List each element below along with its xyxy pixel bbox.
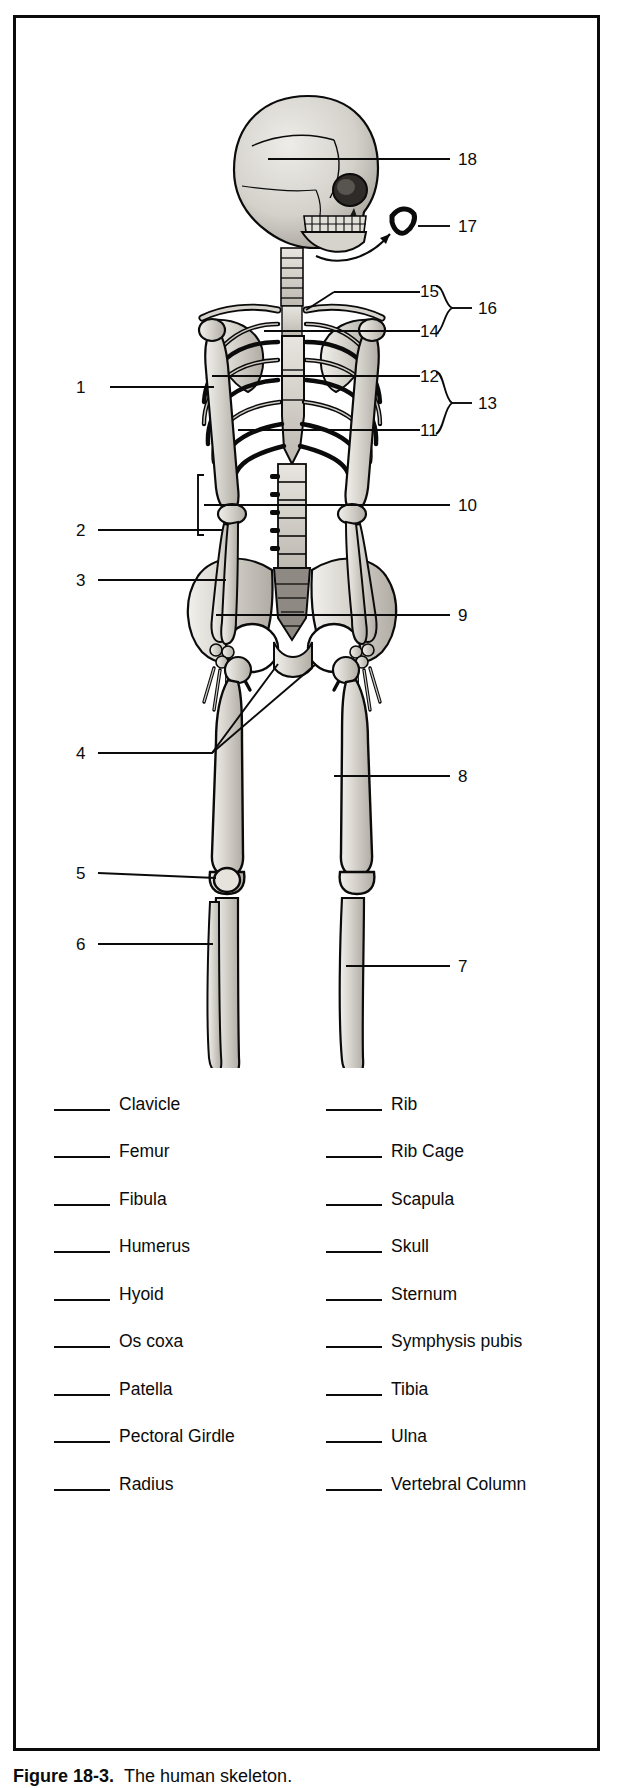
word-list-item[interactable]: Femur (54, 1128, 324, 1176)
label-9: 9 (458, 607, 467, 624)
brace-16 (436, 286, 472, 334)
figure-frame: 1 2 3 4 5 6 7 8 9 10 11 12 13 14 15 16 1… (13, 15, 600, 1751)
word-list-term: Rib Cage (391, 1141, 464, 1161)
label-6: 6 (76, 936, 85, 953)
label-3: 3 (76, 572, 85, 589)
label-13: 13 (478, 395, 497, 412)
cervical-spine (281, 248, 303, 306)
word-list-item[interactable]: Vertebral Column (326, 1460, 596, 1508)
word-list-term: Clavicle (119, 1094, 180, 1114)
label-14: 14 (420, 323, 439, 340)
label-4: 4 (76, 745, 85, 762)
answer-blank[interactable] (326, 1394, 382, 1396)
word-list-term: Femur (119, 1141, 170, 1161)
word-list-item[interactable]: Skull (326, 1223, 596, 1271)
lumbar-spine (270, 464, 306, 568)
word-list-item[interactable]: Symphysis pubis (326, 1318, 596, 1366)
word-list-column-right: Rib Rib Cage Scapula Skull Sternum Symph… (326, 1080, 596, 1508)
word-list-item[interactable]: Radius (54, 1460, 324, 1508)
label-11: 11 (420, 422, 438, 439)
word-list-column-left: Clavicle Femur Fibula Humerus Hyoid Os c… (54, 1080, 324, 1508)
leader-lines (98, 159, 450, 966)
answer-blank[interactable] (326, 1489, 382, 1491)
answer-blank[interactable] (326, 1156, 382, 1158)
word-list-item[interactable]: Clavicle (54, 1080, 324, 1128)
word-list-term: Vertebral Column (391, 1474, 526, 1494)
word-list-term: Tibia (391, 1379, 428, 1399)
word-list: Clavicle Femur Fibula Humerus Hyoid Os c… (16, 1080, 597, 1692)
word-list-term: Os coxa (119, 1331, 183, 1351)
word-list-item[interactable]: Ulna (326, 1413, 596, 1461)
sternum-and-thoracic-spine (282, 306, 304, 464)
figure-caption: Figure 18-3.The human skeleton. (13, 1766, 613, 1787)
word-list-term: Scapula (391, 1189, 454, 1209)
answer-blank[interactable] (54, 1299, 110, 1301)
answer-blank[interactable] (54, 1394, 110, 1396)
word-list-item[interactable]: Sternum (326, 1270, 596, 1318)
word-list-item[interactable]: Fibula (54, 1175, 324, 1223)
figure-caption-text: The human skeleton. (124, 1766, 292, 1786)
word-list-term: Skull (391, 1236, 429, 1256)
answer-blank[interactable] (54, 1441, 110, 1443)
word-list-term: Pectoral Girdle (119, 1426, 235, 1446)
word-list-term: Radius (119, 1474, 173, 1494)
label-8: 8 (458, 768, 467, 785)
answer-blank[interactable] (54, 1489, 110, 1491)
word-list-term: Symphysis pubis (391, 1331, 522, 1351)
word-list-item[interactable]: Rib (326, 1080, 596, 1128)
label-15: 15 (420, 283, 439, 300)
label-12: 12 (420, 368, 439, 385)
leader-4 (98, 664, 278, 753)
right-leg-group (333, 657, 374, 1068)
label-2: 2 (76, 522, 85, 539)
brace-13 (436, 372, 472, 434)
word-list-item[interactable]: Patella (54, 1365, 324, 1413)
label-17: 17 (458, 218, 477, 235)
answer-blank[interactable] (326, 1204, 382, 1206)
answer-blank[interactable] (326, 1299, 382, 1301)
figure-caption-label: Figure 18-3. (13, 1766, 114, 1786)
answer-blank[interactable] (326, 1346, 382, 1348)
word-list-term: Sternum (391, 1284, 457, 1304)
answer-blank[interactable] (326, 1109, 382, 1111)
word-list-item[interactable]: Hyoid (54, 1270, 324, 1318)
word-list-item[interactable]: Rib Cage (326, 1128, 596, 1176)
word-list-term: Patella (119, 1379, 173, 1399)
label-10: 10 (458, 497, 477, 514)
answer-blank[interactable] (54, 1156, 110, 1158)
word-list-item[interactable]: Tibia (326, 1365, 596, 1413)
answer-blank[interactable] (54, 1346, 110, 1348)
answer-blank[interactable] (326, 1441, 382, 1443)
word-list-item[interactable]: Humerus (54, 1223, 324, 1271)
answer-blank[interactable] (326, 1251, 382, 1253)
word-list-item[interactable]: Os coxa (54, 1318, 324, 1366)
word-list-term: Fibula (119, 1189, 167, 1209)
leader-5 (98, 873, 216, 878)
label-5: 5 (76, 865, 85, 882)
label-18: 18 (458, 151, 477, 168)
leader-10-bracket (198, 475, 204, 535)
word-list-term: Humerus (119, 1236, 190, 1256)
skull-group (234, 96, 378, 252)
word-list-item[interactable]: Scapula (326, 1175, 596, 1223)
label-1: 1 (76, 379, 85, 396)
word-list-term: Hyoid (119, 1284, 164, 1304)
left-leg-group (207, 657, 251, 1068)
answer-blank[interactable] (54, 1204, 110, 1206)
answer-blank[interactable] (54, 1251, 110, 1253)
word-list-term: Rib (391, 1094, 417, 1114)
answer-blank[interactable] (54, 1109, 110, 1111)
word-list-item[interactable]: Pectoral Girdle (54, 1413, 324, 1461)
skeleton-illustration: 1 2 3 4 5 6 7 8 9 10 11 12 13 14 15 16 1… (16, 18, 597, 1068)
word-list-term: Ulna (391, 1426, 427, 1446)
skeleton-drawing (16, 18, 597, 1068)
label-7: 7 (458, 958, 467, 975)
label-16: 16 (478, 300, 497, 317)
